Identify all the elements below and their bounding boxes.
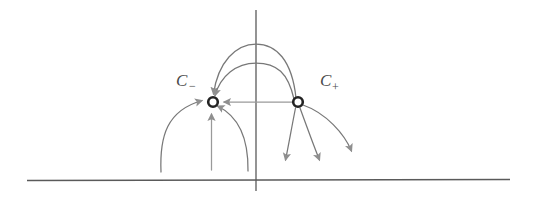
node-c-plus (293, 97, 303, 107)
inner-arc-cplus-to-cminus (215, 63, 294, 99)
figure-canvas: C − C + (0, 0, 535, 207)
outer-arc-cplus-to-cminus (214, 44, 297, 98)
label-c-plus-subscript: + (332, 80, 339, 94)
right-outgoing-curve-3 (303, 105, 352, 151)
left-outer-incoming-curve (161, 101, 202, 173)
right-outgoing-curve-2 (300, 108, 320, 160)
labels-group: C − C + (176, 71, 339, 94)
left-right-incoming-curve (218, 106, 249, 171)
label-c-minus-subscript: − (189, 79, 196, 93)
horizontal-axis (27, 180, 510, 181)
label-c-minus: C (176, 71, 188, 90)
axes-group (27, 10, 510, 191)
right-outgoing-curve-1 (286, 108, 296, 160)
label-c-plus: C (320, 71, 332, 90)
phase-portrait-diagram: C − C + (0, 0, 535, 207)
node-c-minus (208, 97, 218, 107)
